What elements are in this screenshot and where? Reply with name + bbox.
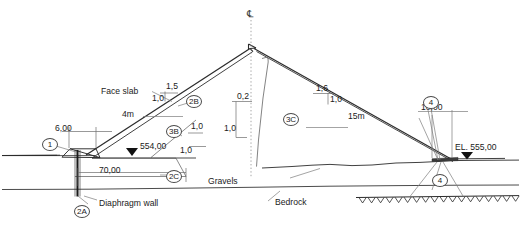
zone-3c-boundary [257, 57, 269, 166]
zone-balloon-4-lower: 4 [432, 174, 448, 187]
zone-balloon-3b: 3B [166, 125, 182, 138]
upstream-face-slab [86, 49, 253, 159]
zone-balloon-3c: 3C [283, 113, 299, 126]
downstream-slope-rise-label: 1,0 [330, 95, 342, 104]
upstream-slope-rise-label: 1,0 [152, 94, 164, 103]
drawing-canvas [0, 0, 522, 229]
zone-balloon-2a: 2A [74, 205, 90, 218]
core-slope-rise-label: 1,0 [224, 124, 236, 133]
zone-balloon-2c: 2C [166, 170, 182, 183]
berm-width-label: 15m [348, 112, 365, 121]
crest-width-label: 4m [122, 110, 134, 119]
reservoir-level-triangle [126, 148, 138, 156]
dam-cross-section-drawing: ℄ Face slab 1,5 1,0 4m 0,2 1,0 1,6 1,0 1… [0, 0, 522, 229]
plinth-width-label: 6,00 [55, 124, 72, 133]
upstream-slope-run-label: 1,5 [166, 82, 178, 91]
zone-balloon-1: 1 [42, 138, 58, 151]
bedrock-label: Bedrock [275, 198, 307, 207]
face-slab-label: Face slab [101, 87, 138, 96]
diaphragm-wall-label: Diaphragm wall [99, 199, 158, 208]
downstream-slope-run-label: 1,6 [316, 84, 328, 93]
centerline-symbol: ℄ [247, 8, 253, 19]
cutoff-length-label: 70,00 [99, 166, 121, 175]
filter-slope-rise-label: 1,0 [191, 122, 203, 131]
toe-drain-block [432, 157, 458, 161]
downstream-elevation-label: EL. 555,00 [455, 143, 497, 152]
reservoir-level-label: 554,00 [140, 142, 166, 151]
filter-slope-run-label: 1,0 [180, 146, 192, 155]
dam-crest [249, 44, 257, 52]
zone-balloon-2b: 2B [186, 95, 202, 108]
core-slope-run-label: 0,2 [237, 92, 249, 101]
gravels-label: Gravels [208, 177, 238, 186]
zone-balloon-4-upper: 4 [423, 96, 439, 109]
